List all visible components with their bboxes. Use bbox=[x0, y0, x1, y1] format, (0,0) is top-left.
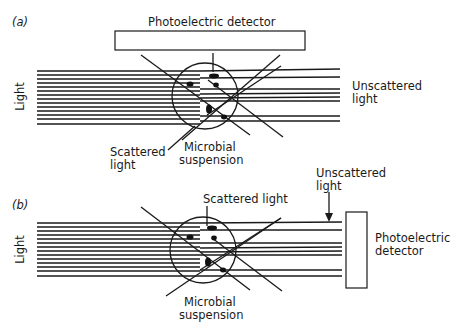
unscattered-arrow-head bbox=[325, 213, 333, 222]
photoelectric-detector-b bbox=[346, 212, 367, 288]
microbial-suspension-b bbox=[170, 217, 236, 283]
scattered-rays-a bbox=[141, 53, 283, 140]
scattered-label-a-2: light bbox=[110, 159, 136, 172]
panel-label-a: (a) bbox=[12, 16, 28, 29]
unscattered-label-a-2: light bbox=[352, 93, 378, 106]
suspension-label-b-2: suspension bbox=[179, 309, 243, 322]
microbes-b bbox=[187, 226, 227, 273]
light-label-a: Light bbox=[14, 82, 27, 112]
photoelectric-detector-a bbox=[115, 31, 305, 50]
detector-label-b-2: detector bbox=[375, 245, 424, 258]
suspension-label-a-2: suspension bbox=[179, 154, 243, 167]
panel-label-b: (b) bbox=[12, 199, 28, 212]
detector-label-a: Photoelectric detector bbox=[148, 16, 275, 29]
light-beam-a bbox=[37, 71, 200, 124]
light-label-b: Light bbox=[14, 235, 27, 265]
microbes-a bbox=[187, 74, 228, 120]
unscattered-label-b-2: light bbox=[316, 180, 342, 193]
scattered-label-b: Scattered light bbox=[203, 193, 288, 206]
